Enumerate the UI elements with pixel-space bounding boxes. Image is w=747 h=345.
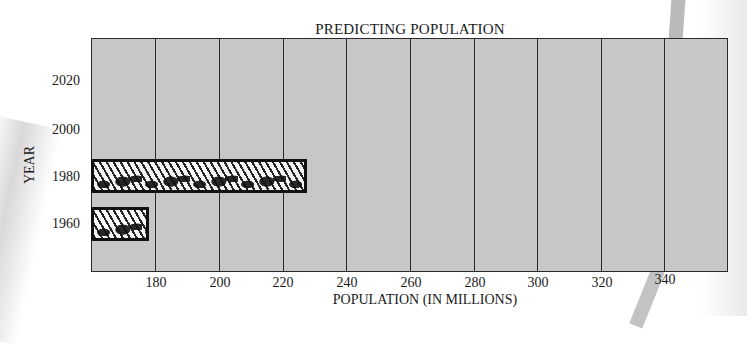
x-tick-200: 200: [210, 275, 231, 291]
x-tick-180: 180: [146, 275, 167, 291]
x-tick-300: 300: [528, 275, 549, 291]
grid-line-340: [664, 39, 665, 271]
bar-1980-pictograph: [91, 159, 307, 193]
grid-line-260: [410, 39, 411, 271]
y-axis-label: YEAR: [22, 146, 38, 184]
grid-line-300: [537, 39, 538, 271]
x-axis-label: POPULATION (IN MILLIONS): [0, 292, 747, 308]
x-tick-220: 220: [273, 275, 294, 291]
x-tick-240: 240: [337, 275, 358, 291]
x-tick-340: 340: [655, 272, 676, 288]
y-tick-1980: 1980: [52, 169, 80, 185]
grid-line-320: [601, 39, 602, 271]
grid-line-180: [155, 39, 156, 271]
chart-title: PREDICTING POPULATION: [0, 21, 747, 38]
x-tick-280: 280: [465, 275, 486, 291]
y-tick-1960: 1960: [52, 216, 80, 232]
grid-line-200: [219, 39, 220, 271]
y-tick-2020: 2020: [52, 73, 80, 89]
y-tick-2000: 2000: [52, 122, 80, 138]
x-tick-260: 260: [401, 275, 422, 291]
crowd-illustration: [94, 210, 146, 238]
crowd-illustration: [94, 162, 304, 190]
x-tick-320: 320: [592, 275, 613, 291]
bar-1960-pictograph: [91, 207, 149, 241]
grid-line-280: [474, 39, 475, 271]
plot-area: [91, 38, 728, 272]
grid-line-220: [283, 39, 284, 271]
grid-line-240: [346, 39, 347, 271]
